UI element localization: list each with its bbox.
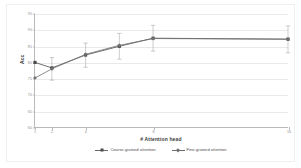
x-tick-mark: [52, 127, 53, 130]
x-axis-title: # Attention head: [34, 136, 288, 142]
x-tick-mark: [35, 127, 36, 130]
y-tick-label: 90: [28, 28, 32, 32]
legend-label: Fine-grained attention: [187, 147, 227, 152]
x-tick-mark: [154, 127, 155, 130]
y-tick-label: 85: [28, 45, 32, 49]
x-tick-mark: [86, 127, 87, 130]
legend-item-coarse-grained: Coarse-grained attention: [95, 147, 155, 152]
series-line: [35, 39, 288, 78]
series-plot: [35, 14, 288, 127]
chart-figure: 9590858075706560 124816 Acc # Attention …: [0, 0, 301, 168]
legend-item-fine-grained: Fine-grained attention: [172, 147, 227, 152]
data-point-marker: [33, 61, 36, 64]
series-fine-grained: [33, 37, 290, 80]
y-tick-label: 65: [28, 110, 32, 114]
y-tick-label: 75: [28, 77, 32, 81]
series-line: [35, 38, 288, 68]
x-tick-label: 16: [287, 130, 291, 134]
y-tick-label: 60: [28, 126, 32, 130]
legend-line-marker-icon: [172, 147, 185, 152]
legend-line-marker-icon: [95, 147, 108, 152]
plot-area: 9590858075706560 124816: [34, 14, 288, 128]
x-tick-label: 2: [51, 130, 53, 134]
legend-label: Coarse-grained attention: [110, 147, 155, 152]
series-coarse-grained: [33, 25, 290, 80]
y-tick-label: 95: [28, 12, 32, 16]
x-tick-label: 1: [34, 130, 36, 134]
x-tick-mark: [289, 127, 290, 130]
y-tick-label: 70: [28, 93, 32, 97]
y-axis-title: Acc: [19, 55, 25, 64]
x-tick-label: 8: [153, 130, 155, 134]
x-tick-label: 4: [85, 130, 87, 134]
y-tick-label: 80: [28, 61, 32, 65]
chart-legend: Coarse-grained attention Fine-grained at…: [34, 147, 288, 152]
